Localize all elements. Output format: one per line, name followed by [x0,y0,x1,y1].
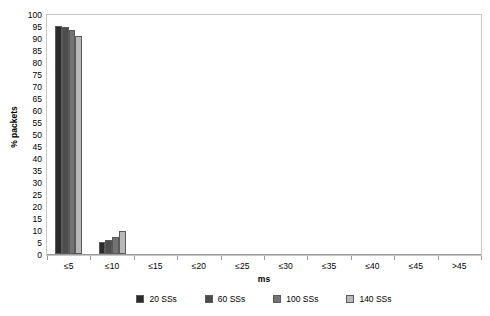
bar-group [359,13,386,254]
x-axis-tick-label: ≤15 [148,261,162,272]
category-axis-line [47,254,481,255]
bar [75,36,82,254]
legend-swatch-icon [346,295,354,303]
y-axis-tick-label: 20 [16,203,42,212]
y-axis-tick-label: 80 [16,59,42,68]
y-axis-tick-label: 40 [16,155,42,164]
x-axis-tick-label: ≤30 [279,261,293,272]
legend-item[interactable]: 60 SSs [205,295,245,304]
x-axis-tick [307,256,308,260]
legend-swatch-icon [136,295,144,303]
x-axis-tick [394,256,395,260]
x-axis-tick [47,256,48,260]
x-axis-tick-label: ≤45 [409,261,423,272]
legend-label: 100 SSs [286,295,318,304]
x-axis-ticks [46,256,482,260]
x-axis-tick [177,256,178,260]
y-axis-tick-label: 75 [16,71,42,80]
y-axis-tick-label: 70 [16,83,42,92]
legend-swatch-icon [205,295,213,303]
legend-swatch-icon [273,295,281,303]
x-axis-tick-label: ≤5 [64,261,73,272]
y-axis-tick-label: 55 [16,119,42,128]
legend-item[interactable]: 20 SSs [136,295,176,304]
bar-chart: % packets 100959085807570656055504540353… [0,0,490,316]
x-axis-tick [264,256,265,260]
bar [55,26,62,254]
y-axis-tick-label: 15 [16,215,42,224]
bar [69,30,76,254]
bar [112,237,119,254]
bar-group [272,13,299,254]
x-axis-tick [481,256,482,260]
bar-group [99,13,126,254]
y-axis-tick-label: 30 [16,179,42,188]
y-axis-tick-label: 50 [16,131,42,140]
legend-label: 140 SSs [359,295,391,304]
y-axis-tick-labels: 1009590858075706560555045403530252015105… [16,14,42,256]
bar-group [229,13,256,254]
y-axis-tick-label: 65 [16,95,42,104]
y-axis-tick-label: 25 [16,191,42,200]
x-axis-tick-labels: ≤5≤10≤15≤20≤25≤30≤35≤40≤45>45 [46,261,482,275]
y-axis-tick-label: 45 [16,143,42,152]
y-axis-tick-label: 90 [16,35,42,44]
bar [99,242,106,254]
x-axis-tick [221,256,222,260]
x-axis-tick-label: >45 [452,261,466,272]
bar-group [185,13,212,254]
x-axis-tick [351,256,352,260]
legend-item[interactable]: 100 SSs [273,295,318,304]
x-axis-tick-label: ≤20 [192,261,206,272]
bar-group [316,13,343,254]
x-axis-tick [134,256,135,260]
bar-group [55,13,82,254]
plot-area [46,14,482,256]
chart-legend: 20 SSs60 SSs100 SSs140 SSs [46,292,482,306]
legend-label: 60 SSs [218,295,245,304]
bar-group [402,13,429,254]
x-axis-tick-label: ≤40 [365,261,379,272]
x-axis-tick [438,256,439,260]
x-axis-title: ms [46,274,482,284]
y-axis-tick-label: 60 [16,107,42,116]
y-axis-tick-label: 95 [16,23,42,32]
legend-label: 20 SSs [149,295,176,304]
x-axis-tick [90,256,91,260]
bar-group [142,13,169,254]
y-axis-tick-label: 35 [16,167,42,176]
x-axis-tick-label: ≤10 [105,261,119,272]
bar [105,240,112,254]
bar [119,231,126,254]
y-axis-tick-label: 100 [16,11,42,20]
bar [62,27,69,254]
x-axis-tick-label: ≤35 [322,261,336,272]
legend-item[interactable]: 140 SSs [346,295,391,304]
bar-group [446,13,473,254]
y-axis-tick-label: 85 [16,47,42,56]
y-axis-tick-label: 0 [16,251,42,260]
y-axis-tick-label: 5 [16,239,42,248]
x-axis-tick-label: ≤25 [235,261,249,272]
y-axis-tick-label: 10 [16,227,42,236]
